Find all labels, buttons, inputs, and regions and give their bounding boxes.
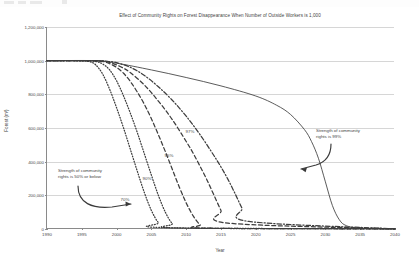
x-tick-label: 2020: [251, 232, 261, 237]
left-annotation: Strength of communityrights is 50% or be…: [58, 168, 102, 181]
left-annotation-line-2: rights is 50% or below: [58, 174, 102, 180]
y-tick-label: 400,000: [28, 159, 44, 164]
x-tick-label: 2025: [286, 232, 296, 237]
series-label-97pct: 97%: [186, 129, 195, 134]
x-tick-label: 2015: [216, 232, 226, 237]
x-tick-label: 2030: [321, 232, 331, 237]
x-tick-label: 1990: [42, 232, 52, 237]
y-tick-label: 1,000,000: [24, 58, 44, 63]
y-tick-label: 200,000: [28, 193, 44, 198]
series-line-99-: [47, 60, 395, 228]
x-tick-label: 2035: [355, 232, 365, 237]
x-tick-label: 2010: [181, 232, 191, 237]
right-annotation: Strength of communityrights is 99%: [316, 128, 360, 141]
y-tick-label: 800,000: [28, 92, 44, 97]
x-axis-title: Year: [46, 248, 394, 253]
y-axis-title: Forest (m³): [4, 97, 9, 145]
x-tick-label: 2005: [147, 232, 157, 237]
series-label-95pct: 95%: [165, 153, 174, 158]
series-label-90pct: 90%: [143, 176, 152, 181]
x-tick-label: 2040: [390, 232, 400, 237]
x-tick-label: 1995: [77, 232, 87, 237]
right-annotation-line-2: rights is 99%: [316, 134, 360, 140]
y-tick-label: 1,200,000: [24, 25, 44, 30]
chart-figure: Effect of Community Rights on Forest Dis…: [0, 0, 419, 269]
y-tick-label: 600,000: [28, 126, 44, 131]
series-label-70pct: 70%: [121, 197, 130, 202]
x-tick-label: 2000: [112, 232, 122, 237]
chart-title: Effect of Community Rights on Forest Dis…: [46, 13, 394, 18]
scan-artifact: [0, 0, 419, 7]
